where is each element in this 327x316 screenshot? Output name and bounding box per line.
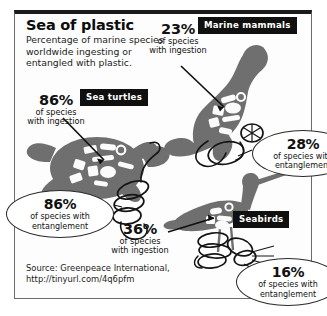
- stat-description-line-2: entanglement: [260, 290, 316, 299]
- stat-value: 23%: [145, 22, 211, 37]
- stat-marine-mammals-ingestion: 23% of species with ingestion: [145, 22, 211, 56]
- label-seabirds: Seabirds: [233, 211, 289, 228]
- stat-description-line-2: with ingestion: [145, 46, 211, 55]
- stat-description-line-2: with ingestion: [20, 117, 92, 126]
- stat-description-line-1: of species with: [258, 280, 318, 289]
- stat-value: 36%: [105, 222, 175, 237]
- source-attribution: Source: Greenpeace International, http:/…: [26, 263, 170, 285]
- stat-description-line-2: entanglement: [275, 161, 327, 170]
- label-marine-mammals: Marine mammals: [198, 17, 297, 34]
- stat-sea-turtles-ingestion: 86% of species with ingestion: [20, 93, 92, 127]
- stat-value: 86%: [20, 93, 92, 108]
- stat-value: 86%: [44, 197, 77, 212]
- infographic-root: Sea of plastic Percentage of marine spec…: [0, 0, 327, 316]
- stat-value: 16%: [272, 265, 305, 280]
- stat-description-line-1: of species with: [273, 152, 327, 161]
- stat-seabirds-ingestion: 36% of species with ingestion: [105, 222, 175, 256]
- source-url: http://tinyurl.com/4q6pfm: [26, 274, 170, 285]
- stat-description-line-1: of species with: [30, 212, 90, 221]
- stat-description-line-2: entanglement: [32, 222, 88, 231]
- page-title: Sea of plastic: [26, 17, 134, 33]
- stat-description-line-2: with ingestion: [105, 246, 175, 255]
- stat-sea-turtles-entanglement: 86% of species with entanglement: [6, 190, 114, 238]
- stat-value: 28%: [287, 137, 320, 152]
- source-organization: Source: Greenpeace International,: [26, 263, 170, 274]
